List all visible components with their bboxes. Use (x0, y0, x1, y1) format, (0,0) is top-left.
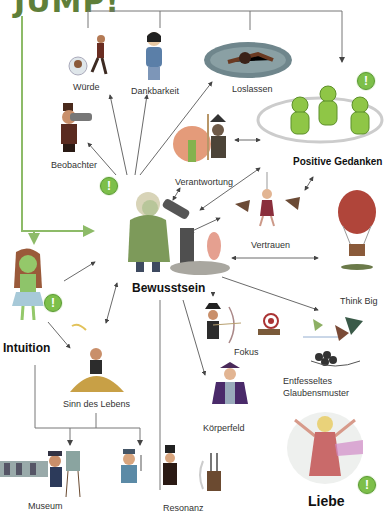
think-big-illustration (335, 190, 379, 270)
koerperfeld-illustration (210, 362, 252, 410)
label-fokus: Fokus (234, 347, 259, 357)
vertrauen-illustration (230, 172, 305, 227)
glaubensmuster-illustration (305, 315, 380, 375)
label-glaubensmuster: Glaubensmuster (283, 388, 349, 398)
label-think-big: Think Big (340, 296, 378, 306)
label-vertrauen: Vertrauen (251, 240, 290, 250)
label-museum: Museum (28, 501, 63, 511)
label-sinn-des-lebens: Sinn des Lebens (63, 399, 130, 409)
label-entfesseltes: Entfesseltes (283, 376, 332, 386)
label-bewusstsein: Bewusstsein (132, 281, 205, 295)
museum-illustration (0, 447, 90, 499)
exclamation-badge-icon: ! (358, 476, 376, 494)
label-koerperfeld: Körperfeld (203, 423, 245, 433)
bewusstsein-illustration (110, 188, 235, 276)
label-wuerde: Würde (73, 82, 100, 92)
positive-gedanken-illustration (255, 80, 385, 148)
fokus-illustration (203, 303, 283, 351)
intuition-illustration (6, 248, 48, 323)
sinn-des-lebens-illustration (62, 320, 130, 392)
label-resonanz: Resonanz (163, 503, 204, 513)
loslassen-illustration (203, 40, 293, 80)
beobachter-illustration (55, 103, 95, 153)
liebe-illustration (285, 410, 365, 485)
concept-diagram: JUMP! (0, 0, 386, 515)
dankbarkeit-illustration (141, 30, 167, 82)
verantwortung-illustration (172, 112, 234, 166)
resonanz-illustration (115, 445, 225, 497)
exclamation-badge-icon: ! (44, 294, 62, 312)
label-positive-gedanken: Positive Gedanken (293, 156, 382, 167)
label-liebe: Liebe (308, 493, 345, 509)
label-beobachter: Beobachter (51, 160, 97, 170)
wuerde-illustration (68, 32, 112, 80)
label-intuition: Intuition (3, 341, 50, 355)
label-dankbarkeit: Dankbarkeit (131, 86, 179, 96)
label-verantwortung: Verantwortung (175, 177, 233, 187)
